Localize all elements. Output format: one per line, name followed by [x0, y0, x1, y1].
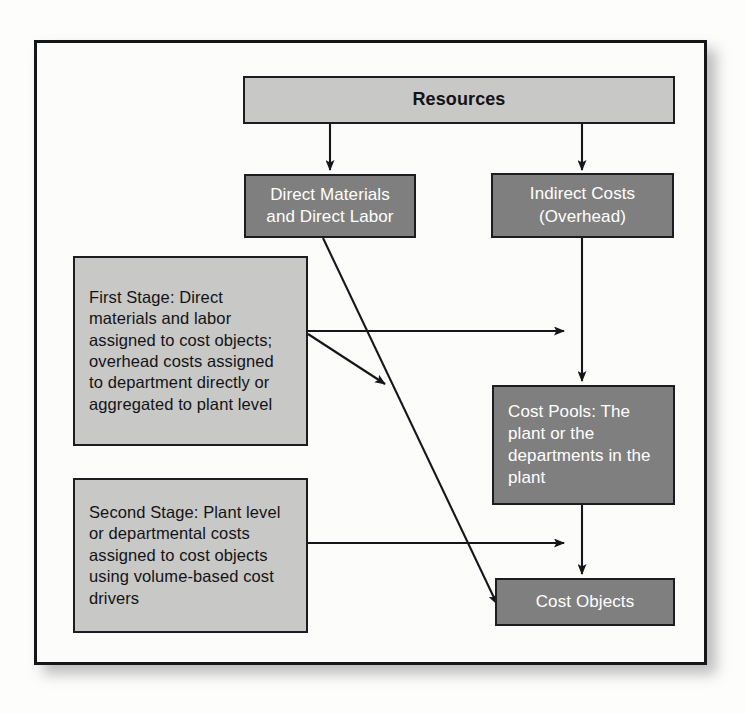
- node-second-stage[interactable]: Second Stage: Plant level or departmenta…: [73, 478, 308, 633]
- node-cost-objects[interactable]: Cost Objects: [495, 578, 675, 626]
- node-cost-objects-label: Cost Objects: [507, 591, 663, 613]
- node-second-stage-label: Second Stage: Plant level or departmenta…: [89, 502, 292, 609]
- node-cost-pools[interactable]: Cost Pools: The plant or the departments…: [492, 385, 675, 505]
- node-indirect-costs[interactable]: Indirect Costs (Overhead): [491, 173, 674, 238]
- node-first-stage[interactable]: First Stage: Direct materials and labor …: [73, 256, 308, 446]
- node-resources[interactable]: Resources: [243, 76, 675, 124]
- node-direct-materials-label: Direct Materials and Direct Labor: [258, 184, 402, 228]
- node-cost-pools-label: Cost Pools: The plant or the departments…: [508, 401, 659, 489]
- node-indirect-costs-label: Indirect Costs (Overhead): [507, 183, 658, 227]
- diagram-canvas: Resources Direct Materials and Direct La…: [0, 0, 746, 714]
- node-direct-materials-and-direct-labor[interactable]: Direct Materials and Direct Labor: [244, 174, 416, 238]
- node-first-stage-label: First Stage: Direct materials and labor …: [89, 287, 292, 416]
- node-resources-label: Resources: [255, 88, 663, 111]
